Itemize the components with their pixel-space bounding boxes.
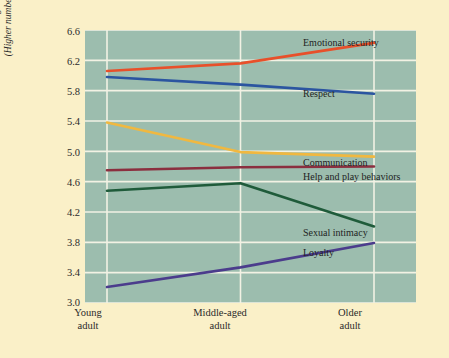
y-tick-label: 6.6 xyxy=(46,27,80,37)
x-tick-line1: Young xyxy=(38,307,138,320)
x-tick-line2: adult xyxy=(170,320,270,333)
series-label-help-and-play-behaviors: Help and play behaviors xyxy=(303,172,400,182)
y-axis-label: Average rating of importance (Higher num… xyxy=(0,0,14,80)
y-tick-label: 4.6 xyxy=(46,178,80,188)
series-label-emotional-security: Emotional security xyxy=(303,38,379,48)
x-tick-line1: Middle-aged xyxy=(170,307,270,320)
y-axis-tick-labels: 6.6 6.2 5.8 5.4 5.0 4.6 4.2 3.8 3.4 3.0 xyxy=(40,30,80,303)
y-axis-label-line2: (Higher numbers mean more important) xyxy=(2,0,14,80)
x-tick-line1: Older xyxy=(300,307,400,320)
y-tick-label: 4.2 xyxy=(46,208,80,218)
x-tick-label-older-adult: Older adult xyxy=(300,307,400,332)
y-tick-label: 5.4 xyxy=(46,117,80,127)
x-tick-line2: adult xyxy=(38,320,138,333)
series-label-loyalty: Loyalty xyxy=(303,248,334,258)
series-label-communication: Communication xyxy=(303,158,367,168)
x-tick-line2: adult xyxy=(300,320,400,333)
figure-canvas: Average rating of importance (Higher num… xyxy=(0,0,449,358)
x-tick-label-middle-aged-adult: Middle-aged adult xyxy=(170,307,270,332)
x-tick-label-young-adult: Young adult xyxy=(38,307,138,332)
series-label-respect: Respect xyxy=(303,89,335,99)
y-tick-label: 5.8 xyxy=(46,87,80,97)
y-tick-label: 6.2 xyxy=(46,57,80,67)
y-tick-label: 3.8 xyxy=(46,238,80,248)
series-label-sexual-intimacy: Sexual intimacy xyxy=(303,228,368,238)
y-tick-label: 5.0 xyxy=(46,148,80,158)
y-tick-label: 3.4 xyxy=(46,268,80,278)
